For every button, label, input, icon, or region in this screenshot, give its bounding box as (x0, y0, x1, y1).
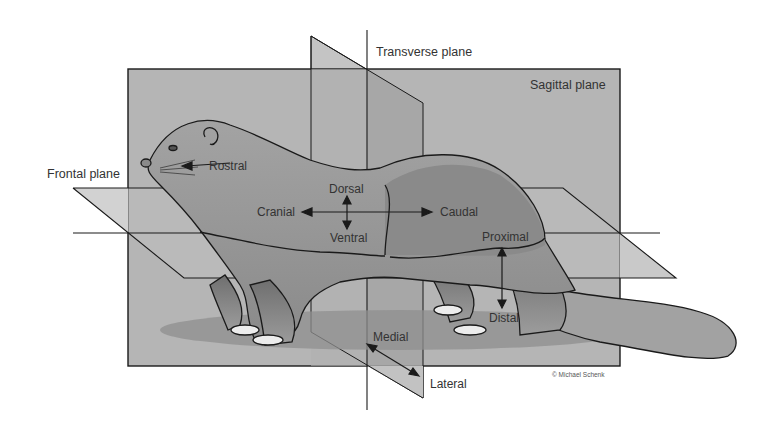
anatomy-diagram: Transverse plane Sagittal plane Frontal … (0, 0, 764, 433)
credit-text: © Michael Schenk (552, 371, 605, 378)
ferret-eye (169, 146, 177, 151)
sagittal-plane-label: Sagittal plane (530, 78, 606, 92)
proximal-label: Proximal (482, 230, 529, 244)
distal-label: Distal (489, 311, 519, 325)
paw (454, 325, 486, 335)
rostral-label: Rostral (209, 159, 247, 173)
paw (231, 325, 259, 335)
medial-label: Medial (373, 330, 408, 344)
paw (253, 335, 283, 345)
lateral-label: Lateral (430, 377, 467, 391)
frontal-plane-label: Frontal plane (47, 167, 120, 181)
caudal-label: Caudal (440, 205, 478, 219)
dorsal-label: Dorsal (329, 182, 364, 196)
transverse-plane-label: Transverse plane (376, 45, 472, 59)
paw (434, 305, 462, 315)
ventral-label: Ventral (330, 231, 367, 245)
ferret-nose (141, 159, 151, 167)
cranial-label: Cranial (257, 205, 295, 219)
